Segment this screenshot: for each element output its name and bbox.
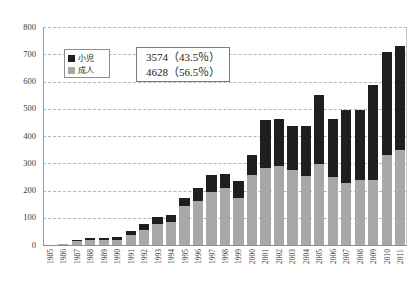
bar-column	[287, 27, 297, 245]
x-axis-tick-label: 1999	[234, 249, 243, 277]
x-axis-tick-label: 2005	[315, 249, 324, 277]
x-axis-tick-label: 2001	[261, 249, 270, 277]
bar-segment-child	[193, 188, 203, 202]
bar-segment-adult	[99, 240, 109, 245]
y-axis-tick-label: 500	[2, 104, 36, 112]
legend-label-adult: 成人	[78, 66, 94, 75]
bar-segment-adult	[301, 176, 311, 245]
bar-segment-child	[274, 119, 284, 166]
x-axis-tick-label: 1998	[221, 249, 230, 277]
x-axis-tick-label: 1987	[73, 249, 82, 277]
legend-label-child: 小児	[78, 54, 94, 63]
x-axis-tick-label: 1994	[167, 249, 176, 277]
annotation-box: 3574（43.5％） 4628（56.5％）	[136, 47, 230, 82]
bar-column	[45, 27, 55, 245]
bar-column	[395, 27, 405, 245]
bar-segment-adult	[72, 241, 82, 245]
bar-segment-adult	[355, 180, 365, 245]
bar-segment-child	[355, 110, 365, 180]
bar-segment-child	[126, 231, 136, 235]
bar-segment-adult	[139, 230, 149, 245]
bar-segment-adult	[206, 192, 216, 245]
bar-column	[233, 27, 243, 245]
x-axis-tick-label: 1985	[46, 249, 55, 277]
bar-segment-adult	[314, 164, 324, 245]
bar-segment-child	[112, 237, 122, 239]
bar-segment-adult	[233, 198, 243, 245]
annotation-line-adult: 4628（56.5％）	[137, 65, 229, 80]
bar-column	[314, 27, 324, 245]
bar-segment-adult	[260, 168, 270, 245]
x-axis-tick-label: 2002	[275, 249, 284, 277]
bar-segment-adult	[85, 240, 95, 245]
x-axis-tick-label: 2003	[288, 249, 297, 277]
bar-column	[274, 27, 284, 245]
bar-segment-child	[395, 46, 405, 150]
bar-segment-adult	[166, 222, 176, 245]
x-axis-tick-label: 1997	[208, 249, 217, 277]
bar-segment-child	[368, 85, 378, 180]
bar-segment-adult	[126, 235, 136, 245]
legend-item-child: 小児	[68, 52, 109, 64]
bar-segment-adult	[179, 206, 189, 245]
bar-segment-adult	[274, 166, 284, 245]
legend-swatch-adult-icon	[68, 67, 75, 74]
bar-segment-child	[260, 120, 270, 169]
y-axis-tick-label: 600	[2, 77, 36, 85]
legend-swatch-child-icon	[68, 55, 75, 62]
bar-column	[368, 27, 378, 245]
x-axis-tick-label: 1995	[181, 249, 190, 277]
bar-segment-child	[301, 126, 311, 176]
bar-segment-adult	[287, 170, 297, 245]
bar-segment-child	[85, 238, 95, 240]
y-axis-tick-label: 300	[2, 159, 36, 167]
x-axis-tick-label: 2010	[383, 249, 392, 277]
x-axis-tick-label: 2006	[329, 249, 338, 277]
bar-segment-child	[152, 217, 162, 224]
x-axis-tick-label: 2007	[342, 249, 351, 277]
x-axis-tick-label: 2009	[369, 249, 378, 277]
y-axis-tick-label: 200	[2, 186, 36, 194]
legend-item-adult: 成人	[68, 64, 109, 76]
bar-segment-adult	[382, 155, 392, 245]
bar-segment-adult	[112, 240, 122, 245]
bar-column	[112, 27, 122, 245]
y-axis-tick-label: 0	[2, 241, 36, 249]
bar-segment-adult	[193, 201, 203, 245]
bar-segment-child	[287, 126, 297, 170]
x-axis-tick-label: 2011	[396, 249, 405, 277]
bar-segment-child	[314, 95, 324, 164]
legend: 小児 成人	[64, 49, 110, 78]
bar-segment-adult	[152, 224, 162, 245]
bar-column	[382, 27, 392, 245]
bar-segment-adult	[328, 177, 338, 245]
bar-segment-adult	[247, 175, 257, 245]
y-axis-tick-label: 100	[2, 213, 36, 221]
bar-segment-adult	[368, 180, 378, 245]
annotation-line-child: 3574（43.5％）	[137, 50, 229, 65]
x-axis-tick-label: 1992	[140, 249, 149, 277]
x-axis-tick-label: 1996	[194, 249, 203, 277]
bar-segment-child	[247, 155, 257, 175]
bar-column	[341, 27, 351, 245]
bar-column	[355, 27, 365, 245]
bar-segment-child	[382, 52, 392, 156]
y-axis-tick-label: 800	[2, 23, 36, 31]
bar-segment-adult	[341, 183, 351, 245]
x-axis-tick-label: 2000	[248, 249, 257, 277]
y-axis-tick-label: 400	[2, 132, 36, 140]
x-axis-tick-label: 2004	[302, 249, 311, 277]
bar-column	[126, 27, 136, 245]
bar-segment-child	[328, 119, 338, 178]
bar-segment-child	[220, 174, 230, 189]
x-axis-tick-label: 1986	[59, 249, 68, 277]
bar-column	[328, 27, 338, 245]
bar-segment-child	[166, 215, 176, 223]
bar-segment-child	[341, 110, 351, 183]
bar-column	[301, 27, 311, 245]
x-axis-tick-label: 1990	[113, 249, 122, 277]
x-axis-tick-label: 2008	[356, 249, 365, 277]
stacked-bar-chart: 0100200300400500600700800 19851986198719…	[0, 0, 414, 281]
x-axis-tick-label: 1988	[86, 249, 95, 277]
x-axis-tick-label: 1991	[127, 249, 136, 277]
